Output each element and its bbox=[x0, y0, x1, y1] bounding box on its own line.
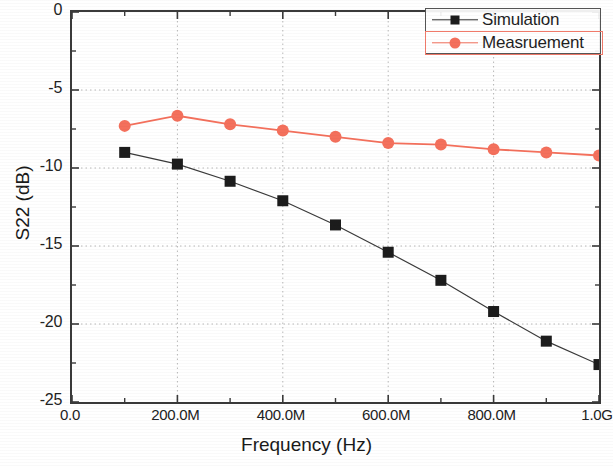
plot-area bbox=[70, 10, 601, 404]
data-point-circle bbox=[382, 137, 394, 149]
data-point-square bbox=[172, 159, 183, 170]
chart-legend: Simulation Measruement bbox=[425, 8, 601, 54]
legend-swatch-simulation bbox=[432, 11, 478, 29]
y-tick-label: 0 bbox=[53, 1, 62, 19]
legend-swatch-measurement bbox=[432, 34, 478, 52]
data-point-circle bbox=[435, 139, 447, 151]
data-series-layer bbox=[119, 110, 599, 370]
legend-item-measurement[interactable]: Measruement bbox=[425, 31, 603, 55]
x-tick-label: 800.0M bbox=[467, 406, 515, 423]
x-tick-label: 600.0M bbox=[362, 406, 410, 423]
data-point-square bbox=[383, 247, 394, 258]
y-tick-label: -25 bbox=[40, 391, 62, 409]
y-tick-label: -15 bbox=[40, 235, 62, 253]
data-point-circle bbox=[593, 150, 599, 162]
y-axis-tick-labels: 0-5-10-15-20-25 bbox=[0, 0, 62, 466]
series-line-simulation bbox=[125, 152, 599, 364]
y-tick-label: -10 bbox=[40, 157, 62, 175]
chart-figure: S22 (dB) 0-5-10-15-20-25 0.0200.0M400.0M… bbox=[0, 0, 613, 466]
y-tick-label: -20 bbox=[40, 313, 62, 331]
data-point-square bbox=[435, 275, 446, 286]
square-marker-icon bbox=[451, 16, 460, 25]
x-tick-label: 0.0 bbox=[60, 406, 80, 423]
series-line-measruement bbox=[125, 116, 599, 156]
data-point-square bbox=[225, 176, 236, 187]
plot-canvas bbox=[72, 12, 599, 402]
y-tick-label: -5 bbox=[48, 79, 62, 97]
x-axis-title: Frequency (Hz) bbox=[0, 434, 613, 456]
data-point-square bbox=[594, 359, 600, 370]
data-point-circle bbox=[540, 146, 552, 158]
data-point-circle bbox=[330, 131, 342, 143]
x-tick-label: 400.0M bbox=[257, 406, 305, 423]
data-point-circle bbox=[277, 125, 289, 137]
legend-label-measurement: Measruement bbox=[482, 33, 584, 53]
gridlines bbox=[72, 12, 599, 402]
axis-ticks bbox=[72, 12, 599, 402]
x-tick-label: 200.0M bbox=[151, 406, 199, 423]
data-point-circle bbox=[488, 143, 500, 155]
legend-item-simulation[interactable]: Simulation bbox=[426, 9, 600, 31]
data-point-square bbox=[119, 147, 130, 158]
data-point-square bbox=[277, 195, 288, 206]
data-point-circle bbox=[119, 120, 131, 132]
data-point-square bbox=[541, 336, 552, 347]
data-point-square bbox=[330, 219, 341, 230]
data-point-circle bbox=[224, 118, 236, 130]
x-tick-label: 1.0G bbox=[581, 406, 612, 423]
data-point-square bbox=[488, 306, 499, 317]
data-point-circle bbox=[171, 110, 183, 122]
legend-label-simulation: Simulation bbox=[482, 10, 559, 30]
circle-marker-icon bbox=[450, 38, 461, 49]
